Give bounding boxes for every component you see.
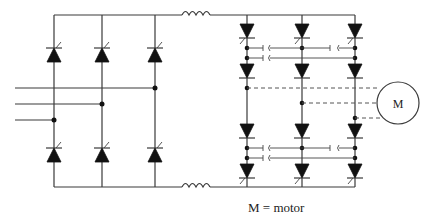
motor-icon: M bbox=[377, 82, 419, 124]
motor-label: M bbox=[393, 97, 404, 111]
commutation-capacitors-upper bbox=[245, 45, 358, 61]
right-inverter-bridge bbox=[239, 15, 382, 187]
thyristor-icon bbox=[347, 124, 363, 138]
ac-input-lines bbox=[15, 86, 158, 123]
inductor-bottom-icon bbox=[182, 184, 355, 188]
commutation-capacitors-lower bbox=[245, 145, 358, 161]
thyristor-icon bbox=[239, 124, 255, 138]
inductor-top-icon bbox=[182, 12, 355, 16]
thyristor-icon bbox=[294, 64, 310, 78]
circuit-diagram: M M = motor bbox=[0, 0, 430, 220]
left-rectifier-bridge bbox=[15, 15, 182, 187]
motor-phase-connections bbox=[245, 86, 382, 121]
thyristor-icon bbox=[239, 64, 255, 78]
caption: M = motor bbox=[248, 200, 305, 215]
thyristor-icon bbox=[347, 64, 363, 78]
thyristor-icon bbox=[294, 124, 310, 138]
